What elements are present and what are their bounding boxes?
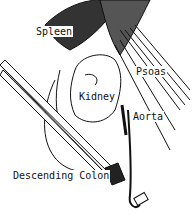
label-aorta: Aorta [132,111,164,122]
label-spleen: Spleen [35,26,73,37]
label-kidney: Kidney [78,91,116,102]
label-descending-colon: Descending Colon [12,170,110,181]
label-psoas: Psoas [135,66,167,77]
anatomical-illustration: Spleen Psoas Kidney Aorta Descending Col… [0,0,193,215]
line-drawing [0,0,193,215]
